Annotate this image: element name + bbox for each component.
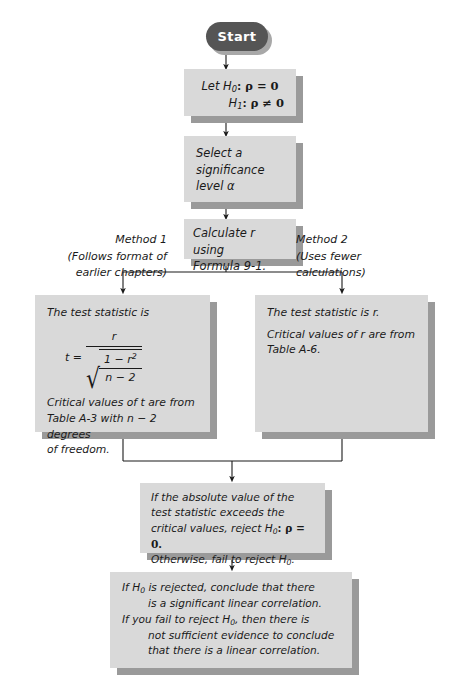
method-1-box: The test statistic is t = r √ 1 − r2 n −… bbox=[35, 295, 210, 432]
formula-inner-numerator-exponent: 2 bbox=[132, 352, 137, 361]
formula-inner-denominator: n − 2 bbox=[100, 369, 140, 387]
conclusion-line-5: that there is a linear correlation. bbox=[122, 643, 340, 658]
conclusion-line-2: is a significant linear correlation. bbox=[122, 596, 340, 611]
method-1-line-1: Method 1 bbox=[22, 232, 167, 249]
start-terminator: Start bbox=[206, 22, 268, 51]
method-2-line-2: (Uses fewer bbox=[296, 249, 436, 266]
decision-line-4: Otherwise, fail to reject H0. bbox=[151, 552, 314, 568]
method-1-annotation: Method 1 (Follows format of earlier chap… bbox=[22, 232, 167, 282]
hypotheses-line-1-rest: : ρ = 0 bbox=[237, 79, 279, 93]
method-2-line-2: Table A-6. bbox=[267, 342, 416, 358]
method-2-annotation: Method 2 (Uses fewer calculations) bbox=[296, 232, 436, 282]
method-1-line-1: Critical values of t are from bbox=[47, 395, 198, 411]
start-label: Start bbox=[218, 29, 257, 44]
conclusion-line-3-b: , then there is bbox=[235, 613, 309, 625]
t-statistic-formula: t = r √ 1 − r2 n − 2 bbox=[65, 329, 198, 388]
formula-inner-numerator: 1 − r2 bbox=[99, 350, 142, 370]
calculate-line-2: Formula 9-1. bbox=[193, 258, 287, 275]
conclusion-line-1-b: is rejected, conclude that there bbox=[145, 581, 315, 593]
decision-line-4-h: H bbox=[279, 553, 287, 565]
conclusion-box: If H0 is rejected, conclude that there i… bbox=[110, 572, 352, 668]
significance-line-3: level α bbox=[196, 178, 284, 195]
hypotheses-line-2-h: H bbox=[229, 96, 238, 110]
conclusion-line-1-a: If bbox=[122, 581, 132, 593]
hypotheses-line-2-rest: : ρ ≠ 0 bbox=[242, 96, 284, 110]
conclusion-line-1: If H0 is rejected, conclude that there bbox=[122, 580, 340, 596]
decision-line-3: critical values, reject H0: ρ = 0. bbox=[151, 521, 314, 553]
formula-numerator: r bbox=[98, 329, 131, 346]
conclusion-line-3-h: H bbox=[222, 613, 230, 625]
method-1-line-3: earlier chapters) bbox=[22, 265, 167, 282]
method-1-line-3: of freedom. bbox=[47, 442, 198, 458]
significance-line-1: Select a bbox=[196, 145, 284, 162]
significance-line-2: significance bbox=[196, 162, 284, 179]
calculate-r-box: Calculate r using Formula 9-1. bbox=[184, 219, 296, 259]
decision-line-3-h: H bbox=[265, 522, 273, 534]
method-2-line-1: Method 2 bbox=[296, 232, 436, 249]
hypotheses-line-1-prefix: Let bbox=[201, 79, 223, 93]
decision-line-3-a: critical values, reject bbox=[151, 522, 265, 534]
hypotheses-line-2: H1: ρ ≠ 0 bbox=[196, 95, 284, 112]
hypotheses-line-1-h: H bbox=[223, 79, 232, 93]
decision-line-4-a: Otherwise, fail to reject bbox=[151, 553, 279, 565]
decision-line-4-b: . bbox=[291, 553, 294, 565]
formula-lhs: t = bbox=[65, 350, 82, 366]
conclusion-line-3: If you fail to reject H0, then there is bbox=[122, 612, 340, 628]
decision-line-1: If the absolute value of the bbox=[151, 490, 314, 505]
decision-box: If the absolute value of the test statis… bbox=[140, 483, 325, 553]
method-2-box: The test statistic is r. Critical values… bbox=[255, 295, 428, 432]
method-2-heading: The test statistic is r. bbox=[267, 305, 416, 321]
flowchart-page: Start Let H0: ρ = 0 H1: ρ ≠ 0 Select a s… bbox=[0, 0, 452, 692]
method-1-heading: The test statistic is bbox=[47, 305, 198, 321]
formula-inner-numerator-text: 1 − r bbox=[104, 353, 132, 366]
significance-level-box: Select a significance level α bbox=[184, 136, 296, 202]
method-1-line-2: Table A-3 with n − 2 degrees bbox=[47, 411, 198, 442]
conclusion-line-3-a: If you fail to reject bbox=[122, 613, 222, 625]
hypotheses-box: Let H0: ρ = 0 H1: ρ ≠ 0 bbox=[184, 69, 296, 116]
method-2-line-3: calculations) bbox=[296, 265, 436, 282]
radical-icon: √ bbox=[86, 344, 100, 393]
calculate-line-1: Calculate r using bbox=[193, 225, 287, 258]
conclusion-line-1-h: H bbox=[132, 581, 140, 593]
hypotheses-line-1: Let H0: ρ = 0 bbox=[196, 78, 284, 95]
method-1-line-2: (Follows format of bbox=[22, 249, 167, 266]
decision-line-2: test statistic exceeds the bbox=[151, 505, 314, 520]
method-2-line-1: Critical values of r are from bbox=[267, 327, 416, 343]
conclusion-line-4: not sufficient evidence to conclude bbox=[122, 628, 340, 643]
